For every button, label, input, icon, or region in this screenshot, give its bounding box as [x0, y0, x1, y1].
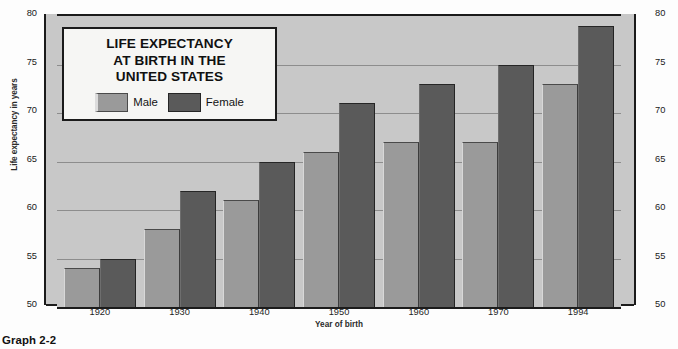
- x-axis-tick-1940: 1940: [219, 307, 299, 317]
- x-axis-tick-1960: 1960: [379, 307, 459, 317]
- chart-title-line-2: AT BIRTH IN THE: [70, 53, 269, 70]
- y-axis-tick-75: 75: [655, 58, 665, 67]
- bar-female-1950: [339, 103, 375, 307]
- x-axis-tick-labels: 1920193019401950196019701994: [57, 307, 621, 317]
- bar-female-1930: [180, 191, 216, 307]
- x-axis-tick-1930: 1930: [140, 307, 220, 317]
- bar-group-1950: [299, 16, 379, 307]
- bar-male-1920: [64, 268, 100, 307]
- bar-group-1960: [379, 16, 459, 307]
- bar-male-1970: [462, 142, 498, 307]
- y-axis-tick-80: 80: [27, 9, 37, 18]
- legend-label-male: Male: [133, 96, 158, 108]
- y-axis-tick-50: 50: [655, 300, 665, 309]
- bar-group-1970: [459, 16, 539, 307]
- chart-title-line-1: LIFE EXPECTANCY: [70, 36, 269, 53]
- bar-female-1960: [419, 84, 455, 307]
- male-swatch: [95, 93, 128, 112]
- x-axis-tick-1970: 1970: [459, 307, 539, 317]
- bar-group-1994: [538, 16, 618, 307]
- x-axis-tick-1920: 1920: [60, 307, 140, 317]
- legend-entry-female: Female: [168, 93, 244, 112]
- y-axis-tick-70: 70: [655, 106, 665, 115]
- y-axis-tick-80: 80: [655, 9, 665, 18]
- y-axis-tick-65: 65: [655, 155, 665, 164]
- female-swatch: [168, 93, 201, 112]
- title-legend-box: LIFE EXPECTANCY AT BIRTH IN THE UNITED S…: [62, 27, 277, 121]
- y-axis-tick-labels-right: 50556065707580: [653, 14, 675, 305]
- y-axis-tick-labels-left: 50556065707580: [17, 14, 39, 305]
- bar-female-1940: [259, 162, 295, 308]
- major-tick-50: [621, 304, 634, 306]
- chart-title-line-3: UNITED STATES: [70, 69, 269, 86]
- y-axis-tick-60: 60: [27, 203, 37, 212]
- y-axis-tick-50: 50: [27, 300, 37, 309]
- y-axis-tick-55: 55: [27, 252, 37, 261]
- y-axis-tick-75: 75: [27, 58, 37, 67]
- x-axis-tick-1994: 1994: [538, 307, 618, 317]
- y-axis-tick-rail-right: [621, 14, 636, 305]
- y-axis-tick-60: 60: [655, 203, 665, 212]
- y-axis-tick-55: 55: [655, 252, 665, 261]
- graph-figure: Life expectancy in years 50556065707580 …: [0, 0, 678, 349]
- figure-caption: Graph 2-2: [2, 334, 56, 346]
- bar-male-1994: [542, 84, 578, 307]
- y-axis-tick-65: 65: [27, 155, 37, 164]
- bar-female-1994: [578, 26, 614, 307]
- legend-entry-male: Male: [95, 93, 158, 112]
- y-axis-tick-70: 70: [27, 106, 37, 115]
- bar-male-1940: [223, 200, 259, 307]
- legend-label-female: Female: [206, 96, 244, 108]
- legend: MaleFemale: [70, 93, 269, 113]
- x-axis-label: Year of birth: [57, 320, 621, 329]
- bar-male-1950: [303, 152, 339, 307]
- bar-female-1970: [498, 65, 534, 308]
- bar-female-1920: [100, 259, 136, 308]
- x-axis-tick-1950: 1950: [299, 307, 379, 317]
- bar-male-1930: [144, 229, 180, 307]
- bar-male-1960: [383, 142, 419, 307]
